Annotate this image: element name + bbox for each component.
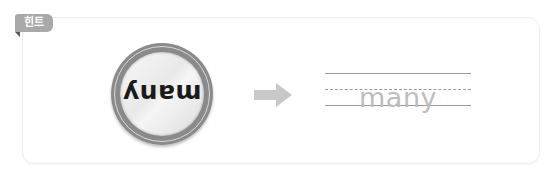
trace-word: many <box>325 84 471 111</box>
hint-badge-tail <box>15 32 20 37</box>
coin-word-upside-down: many <box>120 52 204 136</box>
coin-face: many <box>120 52 204 136</box>
arrow-right-icon <box>254 83 292 107</box>
hint-badge: 힌트 <box>15 14 53 32</box>
handwriting-guide: many <box>325 73 471 109</box>
word-coin: many <box>111 43 213 145</box>
guide-top-line <box>325 73 471 74</box>
